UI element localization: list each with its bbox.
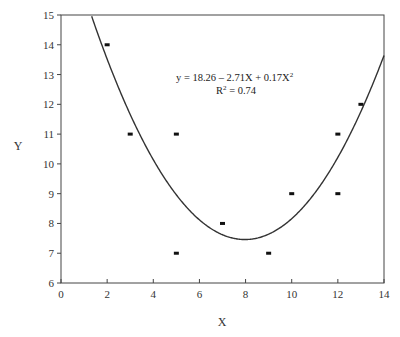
y-tick-label: 10 (43, 158, 55, 170)
x-tick-label: 0 (58, 288, 64, 300)
scatter-chart: 6789101112131415 02468101214 X Y y = 18.… (0, 0, 400, 337)
y-tick-label: 11 (43, 128, 54, 140)
data-point (335, 192, 340, 195)
y-tick-label: 14 (43, 39, 55, 51)
y-tick-label: 15 (43, 9, 55, 21)
y-tick-label: 7 (49, 247, 55, 259)
data-point (128, 133, 133, 136)
y-tick-label: 8 (49, 217, 55, 229)
data-point (174, 133, 179, 136)
x-tick-label: 6 (197, 288, 203, 300)
data-point (289, 192, 294, 195)
x-tick-label: 8 (243, 288, 249, 300)
x-tick-label: 12 (332, 288, 343, 300)
data-point (174, 252, 179, 255)
data-point (266, 252, 271, 255)
y-tick-label: 12 (43, 98, 54, 110)
r-squared-annotation: R2 = 0.74 (216, 84, 257, 96)
plot-border (61, 15, 384, 283)
y-tick-label: 13 (43, 69, 55, 81)
equation-annotation: y = 18.26 – 2.71X + 0.17X2 (176, 71, 294, 83)
x-tick-label: 4 (151, 288, 157, 300)
y-tick-label: 6 (49, 277, 55, 289)
r2-value: = 0.74 (227, 85, 257, 96)
data-point (358, 103, 363, 106)
plot-frame (61, 15, 384, 283)
data-point (105, 43, 110, 46)
x-tick-label: 2 (104, 288, 110, 300)
equation-text: y = 18.26 – 2.71X + 0.17X (176, 72, 290, 83)
y-tick-label: 9 (49, 188, 55, 200)
y-axis-title: Y (14, 139, 23, 153)
data-point (220, 222, 225, 225)
x-tick-label: 14 (379, 288, 391, 300)
data-point (335, 133, 340, 136)
x-axis-title: X (218, 315, 227, 329)
equation-exponent: 2 (290, 71, 294, 79)
fit-curve (92, 16, 384, 239)
x-tick-label: 10 (286, 288, 298, 300)
r2-label: R (216, 85, 223, 96)
y-axis: 6789101112131415 (43, 9, 61, 289)
x-axis: 02468101214 (58, 279, 390, 300)
